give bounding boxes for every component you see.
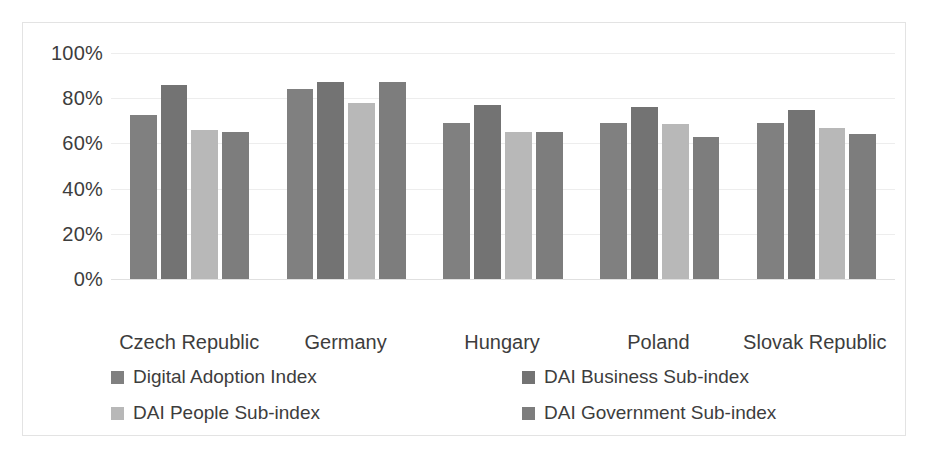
bar[interactable]: [474, 105, 501, 279]
bar-group-bars: [600, 23, 719, 323]
x-axis-label: Slovak Republic: [737, 323, 893, 361]
bar-group-bars: [757, 23, 876, 323]
legend-item[interactable]: DAI People Sub-index: [111, 395, 488, 431]
bar[interactable]: [849, 134, 876, 279]
bar-group: [738, 23, 895, 323]
y-tick-label-100: 100%: [51, 42, 103, 65]
bar-group: [111, 23, 268, 323]
bar[interactable]: [222, 132, 249, 279]
x-axis-label: Hungary: [424, 323, 580, 361]
bar[interactable]: [693, 137, 720, 279]
legend-swatch-icon: [522, 371, 535, 384]
legend-item[interactable]: DAI Business Sub-index: [488, 359, 865, 395]
bar[interactable]: [379, 82, 406, 279]
bar-group-bars: [443, 23, 562, 323]
plot-area: 100%80%60%40%20%0%: [23, 23, 907, 323]
bar[interactable]: [287, 89, 314, 279]
x-axis-label: Germany: [267, 323, 423, 361]
bar[interactable]: [757, 123, 784, 279]
bar[interactable]: [505, 132, 532, 279]
bar[interactable]: [191, 130, 218, 279]
legend-label: DAI People Sub-index: [133, 402, 320, 424]
legend-label: DAI Government Sub-index: [544, 402, 776, 424]
legend-label: Digital Adoption Index: [133, 366, 317, 388]
bar[interactable]: [161, 85, 188, 279]
bar[interactable]: [443, 123, 470, 279]
bar[interactable]: [819, 128, 846, 279]
y-axis: 100%80%60%40%20%0%: [23, 23, 103, 323]
x-axis-label: Czech Republic: [111, 323, 267, 361]
bar-group-bars: [287, 23, 406, 323]
y-tick-label-0: 0%: [74, 268, 103, 291]
legend-swatch-icon: [522, 407, 535, 420]
y-tick-label-60: 60%: [62, 132, 103, 155]
bar-groups: [111, 23, 895, 323]
bar[interactable]: [631, 107, 658, 279]
scan-artifact: [30, 441, 450, 455]
x-axis-label: Poland: [580, 323, 736, 361]
bar[interactable]: [348, 103, 375, 279]
y-tick-label-40: 40%: [62, 177, 103, 200]
legend-item[interactable]: DAI Government Sub-index: [488, 395, 865, 431]
bar-group-bars: [130, 23, 249, 323]
bar[interactable]: [536, 132, 563, 279]
bar[interactable]: [600, 123, 627, 279]
bar-group: [268, 23, 425, 323]
x-axis-category-labels: Czech RepublicGermanyHungaryPolandSlovak…: [111, 323, 893, 361]
bar-group: [581, 23, 738, 323]
y-tick-label-20: 20%: [62, 222, 103, 245]
bar[interactable]: [788, 110, 815, 280]
chart-legend: Digital Adoption IndexDAI Business Sub-i…: [111, 359, 865, 431]
bar-group: [425, 23, 582, 323]
chart-container: 100%80%60%40%20%0% Czech RepublicGermany…: [22, 22, 906, 436]
bar[interactable]: [662, 124, 689, 279]
y-tick-label-80: 80%: [62, 87, 103, 110]
legend-item[interactable]: Digital Adoption Index: [111, 359, 488, 395]
legend-swatch-icon: [111, 371, 124, 384]
legend-label: DAI Business Sub-index: [544, 366, 749, 388]
bar[interactable]: [317, 82, 344, 279]
bar[interactable]: [130, 115, 157, 279]
legend-swatch-icon: [111, 407, 124, 420]
